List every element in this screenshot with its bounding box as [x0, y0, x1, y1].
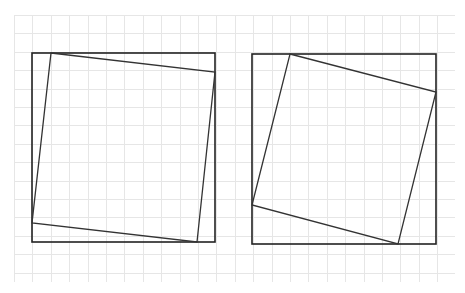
pythagorean-squares-diagram	[0, 0, 465, 293]
